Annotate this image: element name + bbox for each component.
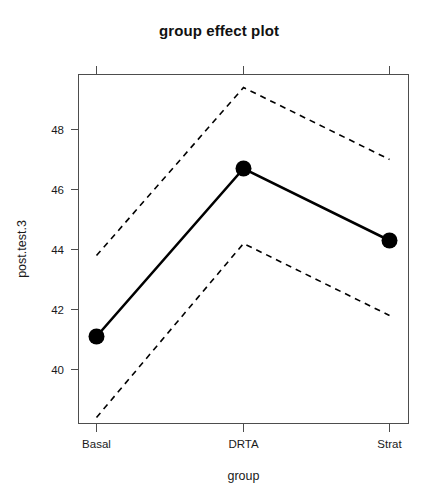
- effect-plot-figure: group effect plot 48 46 44 42 40 post.t: [0, 0, 438, 504]
- series-line-0: [97, 169, 390, 337]
- y-axis-ticks: [71, 130, 79, 370]
- plot-panel-border: [79, 75, 409, 424]
- chart-canvas: 48 46 44 42 40 post.test.3 Basal DRTA St…: [0, 0, 438, 504]
- y-axis-tick-labels: 48 46 44 42 40: [51, 124, 64, 376]
- y-tick-label-1: 46: [51, 184, 64, 196]
- data-point-strat: [382, 233, 398, 249]
- y-axis-title: post.test.3: [15, 220, 29, 278]
- y-tick-label-3: 42: [51, 304, 64, 316]
- x-tick-label-basal: Basal: [82, 438, 111, 450]
- x-axis-title: group: [228, 469, 260, 483]
- y-tick-label-4: 40: [51, 364, 64, 376]
- x-axis-ticks-top: [97, 66, 390, 75]
- series-layer: [89, 88, 398, 418]
- x-axis-ticks-bottom: [97, 424, 390, 433]
- x-tick-label-strat: Strat: [377, 438, 402, 450]
- x-tick-label-drta: DRTA: [228, 438, 259, 450]
- x-axis-tick-labels: Basal DRTA Strat: [82, 438, 402, 450]
- y-tick-label-0: 48: [51, 124, 64, 136]
- y-tick-label-2: 44: [51, 244, 64, 256]
- data-point-basal: [89, 329, 105, 345]
- series-line-2: [97, 244, 390, 418]
- data-point-drta: [236, 161, 252, 177]
